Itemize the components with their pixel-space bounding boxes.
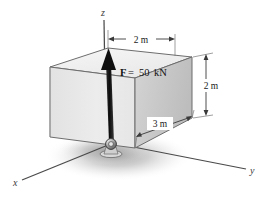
dimension-label-right: 2 m xyxy=(204,81,219,91)
force-unit: kN xyxy=(154,67,167,78)
force-equals: = xyxy=(128,67,134,78)
axis-label-x: x xyxy=(12,177,18,188)
box-face-left xyxy=(50,67,135,148)
support-ball-inner xyxy=(109,142,114,147)
figure-canvas: 2 m 2 m 3 m F = 50 kN xyxy=(0,0,266,197)
dimension-label-top: 2 m xyxy=(134,35,149,45)
dimension-label-bottom: 3 m xyxy=(153,119,168,129)
force-magnitude: 50 xyxy=(139,67,150,78)
statics-figure: 2 m 2 m 3 m F = 50 kN xyxy=(0,0,266,197)
dimension-right-height: 2 m xyxy=(193,53,224,118)
box-solid xyxy=(50,48,192,148)
axis-label-z: z xyxy=(100,7,105,18)
force-label: F = 50 kN xyxy=(120,67,167,78)
axis-label-y: y xyxy=(249,165,255,176)
force-symbol: F xyxy=(120,67,126,78)
